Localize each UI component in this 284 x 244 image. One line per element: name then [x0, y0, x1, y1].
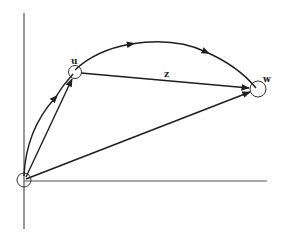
edge-origin-to-u-straight — [26, 79, 72, 177]
label-z: z — [164, 69, 169, 79]
edge-u-to-w-arc-b — [131, 42, 206, 52]
vector-diagram: u w z — [0, 0, 284, 244]
label-u: u — [71, 56, 78, 66]
label-w: w — [262, 74, 271, 84]
edge-u-to-w-arc-a — [75, 44, 131, 70]
edge-u-to-w-arc-c — [206, 52, 256, 88]
edge-origin-to-u-curve-a — [24, 98, 55, 176]
node-u — [69, 66, 82, 79]
